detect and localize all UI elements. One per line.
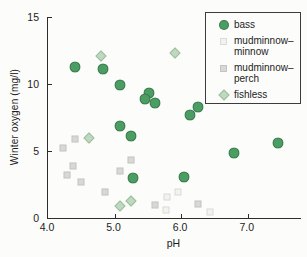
- legend-item-mudminnow-minnow: mudminnow–minnow: [213, 35, 298, 58]
- point-mudminnow-minnow: [174, 188, 181, 195]
- legend-label: mudminnow–perch: [234, 62, 293, 85]
- point-mudminnow-perch: [116, 168, 123, 175]
- y-tick-mark: [48, 84, 52, 85]
- fishless-diamond-icon: [218, 89, 229, 100]
- legend-label-line: bass: [234, 19, 255, 31]
- x-tick-label: 5.0: [106, 221, 121, 233]
- legend-label-line: minnow: [234, 46, 293, 58]
- point-mudminnow-perch: [101, 188, 108, 195]
- bass-circle-icon: [219, 20, 229, 30]
- point-fishless: [84, 133, 95, 144]
- legend-label: bass: [234, 19, 255, 31]
- x-tick-label: 7.0: [239, 221, 254, 233]
- point-mudminnow-perch: [63, 172, 70, 179]
- legend-label-line: mudminnow–: [234, 62, 293, 74]
- point-fishless: [96, 50, 107, 61]
- legend-item-fishless: fishless: [213, 89, 298, 101]
- legend-item-mudminnow-perch: mudminnow–perch: [213, 62, 298, 85]
- legend-label: mudminnow–minnow: [234, 35, 293, 58]
- point-bass: [98, 64, 109, 75]
- y-tick-label: 10: [27, 78, 39, 90]
- point-mudminnow-perch: [70, 163, 77, 170]
- legend-label: fishless: [234, 89, 267, 101]
- legend-marker-cell: [213, 62, 234, 72]
- legend-marker-cell: [213, 35, 234, 45]
- legend-marker-cell: [213, 89, 234, 99]
- x-axis-title: pH: [47, 237, 300, 249]
- point-mudminnow-perch: [151, 201, 158, 208]
- point-mudminnow-minnow: [206, 208, 213, 215]
- point-bass: [126, 131, 137, 142]
- x-tick-mark: [248, 214, 249, 218]
- point-mudminnow-perch: [60, 145, 67, 152]
- legend-marker-cell: [213, 19, 234, 30]
- point-bass: [114, 80, 125, 91]
- legend-label-line: fishless: [234, 89, 267, 101]
- x-tick-mark: [115, 214, 116, 218]
- point-fishless: [169, 47, 180, 58]
- point-bass: [128, 173, 139, 184]
- legend: bass mudminnow–minnow mudminnow–perch fi…: [205, 12, 301, 104]
- mudminnow-minnow-square-icon: [220, 38, 227, 45]
- mudminnow-perch-square-icon: [220, 65, 227, 72]
- point-bass: [184, 109, 195, 120]
- point-mudminnow-perch: [78, 178, 85, 185]
- scatter-figure: Winter oxygen (mg/l) 0 5 10 15 4.0 5.0 6…: [0, 0, 307, 257]
- legend-label-line: perch: [234, 73, 293, 85]
- y-tick-label: 15: [27, 11, 39, 23]
- point-mudminnow-perch: [71, 135, 78, 142]
- y-tick-mark: [48, 151, 52, 152]
- y-tick-label: 5: [33, 145, 39, 157]
- point-mudminnow-perch: [194, 200, 201, 207]
- legend-item-bass: bass: [213, 19, 298, 31]
- point-mudminnow-minnow: [162, 206, 169, 213]
- x-axis-tick-labels: 4.0 5.0 6.0 7.0: [47, 221, 300, 233]
- legend-label-line: mudminnow–: [234, 35, 293, 47]
- y-axis-tick-labels: 0 5 10 15: [0, 17, 42, 218]
- point-bass: [229, 148, 240, 159]
- y-tick-mark: [48, 17, 52, 18]
- point-bass: [149, 98, 160, 109]
- point-bass: [69, 61, 80, 72]
- point-mudminnow-minnow: [163, 194, 170, 201]
- point-bass: [114, 120, 125, 131]
- point-fishless: [114, 200, 125, 211]
- point-bass: [179, 172, 190, 183]
- x-tick-mark: [181, 214, 182, 218]
- x-tick-label: 4.0: [40, 221, 55, 233]
- point-fishless: [126, 195, 137, 206]
- point-mudminnow-perch: [128, 156, 135, 163]
- point-bass: [272, 137, 283, 148]
- y-tick-label: 0: [33, 212, 39, 224]
- x-tick-label: 6.0: [173, 221, 188, 233]
